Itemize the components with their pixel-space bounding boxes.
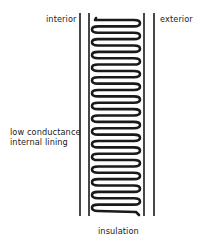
insulation-coil [92,18,140,215]
internal-lining-label-line1: low conductance [10,127,81,137]
internal-lining-label: low conductance internal lining [10,127,81,147]
internal-lining-label-line2: internal lining [10,137,81,147]
exterior-label: exterior [160,14,193,24]
wall-section-diagram [0,0,202,244]
interior-label: interior [46,14,77,24]
insulation-label: insulation [98,226,139,236]
